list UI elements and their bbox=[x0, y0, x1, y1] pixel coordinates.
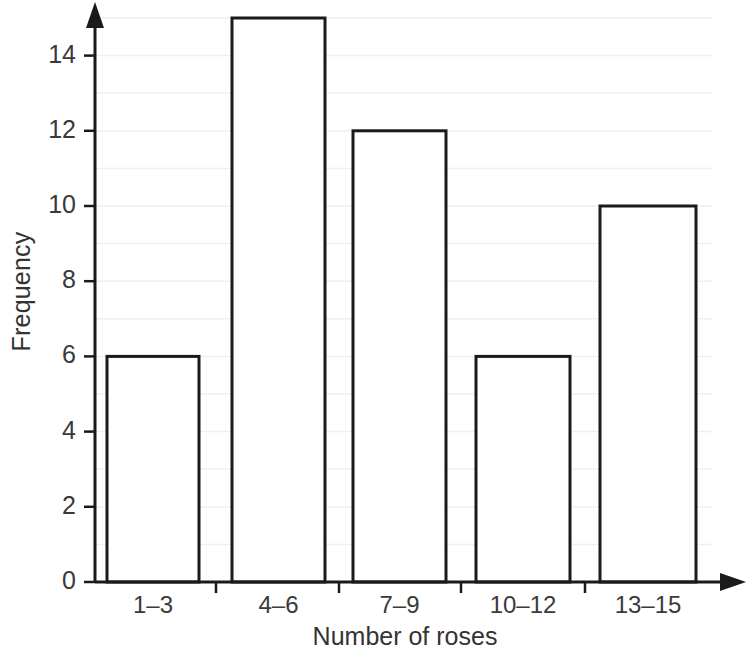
histogram-bar[interactable] bbox=[107, 356, 199, 582]
y-axis-tick-label: 14 bbox=[30, 40, 76, 69]
bars-group bbox=[107, 18, 696, 582]
histogram-bar[interactable] bbox=[353, 131, 446, 582]
x-axis-title-text: Number of roses bbox=[313, 622, 498, 650]
chart-canvas bbox=[0, 0, 750, 670]
y-axis-tick-label: 2 bbox=[30, 491, 76, 520]
x-axis-tick-label: 4–6 bbox=[209, 591, 349, 619]
y-axis-tick-label: 12 bbox=[30, 115, 76, 144]
x-axis-tick-label: 13–15 bbox=[578, 591, 718, 619]
x-axis-tick-label: 1–3 bbox=[83, 591, 223, 619]
x-axis-tick-label: 7–9 bbox=[330, 591, 470, 619]
x-axis-arrow-icon bbox=[720, 573, 746, 591]
y-axis-tick-label: 4 bbox=[30, 416, 76, 445]
y-axis-tick-label: 6 bbox=[30, 340, 76, 369]
histogram-bar[interactable] bbox=[232, 18, 325, 582]
y-axis-tick-label: 8 bbox=[30, 265, 76, 294]
y-axis-ticks bbox=[84, 56, 95, 582]
histogram-bar[interactable] bbox=[600, 206, 696, 582]
histogram-chart: Frequency Number of roses 02468101214 1–… bbox=[0, 0, 750, 670]
x-axis-title: Number of roses bbox=[95, 622, 715, 651]
histogram-bar[interactable] bbox=[476, 356, 570, 582]
y-axis-arrow-icon bbox=[86, 2, 104, 28]
x-axis-tick-label: 10–12 bbox=[453, 591, 593, 619]
y-axis-tick-label: 10 bbox=[30, 190, 76, 219]
y-axis-tick-label: 0 bbox=[30, 566, 76, 595]
